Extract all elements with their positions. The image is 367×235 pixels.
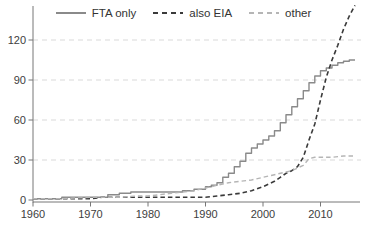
light-dashed-line-icon <box>249 12 279 14</box>
svg-text:0: 0 <box>20 194 26 206</box>
plot-area: 0306090120196019701980199020002010 <box>0 0 367 235</box>
legend-label-other: other <box>285 7 311 19</box>
svg-text:1990: 1990 <box>193 208 217 220</box>
solid-line-icon <box>56 12 86 14</box>
chart-container: FTA only also EIA other 0306090120196019… <box>0 0 367 235</box>
svg-text:2000: 2000 <box>251 208 275 220</box>
svg-text:2010: 2010 <box>308 208 332 220</box>
svg-text:1970: 1970 <box>78 208 102 220</box>
svg-text:90: 90 <box>14 74 26 86</box>
svg-text:1960: 1960 <box>21 208 45 220</box>
chart-legend: FTA only also EIA other <box>0 7 367 19</box>
svg-text:1980: 1980 <box>136 208 160 220</box>
legend-item-also-eia: also EIA <box>153 7 232 19</box>
legend-label-also-eia: also EIA <box>189 7 232 19</box>
dark-dashed-line-icon <box>153 12 183 14</box>
svg-text:120: 120 <box>8 34 26 46</box>
legend-item-fta-only: FTA only <box>56 7 137 19</box>
svg-text:60: 60 <box>14 114 26 126</box>
legend-label-fta-only: FTA only <box>92 7 137 19</box>
legend-item-other: other <box>249 7 311 19</box>
svg-text:30: 30 <box>14 154 26 166</box>
